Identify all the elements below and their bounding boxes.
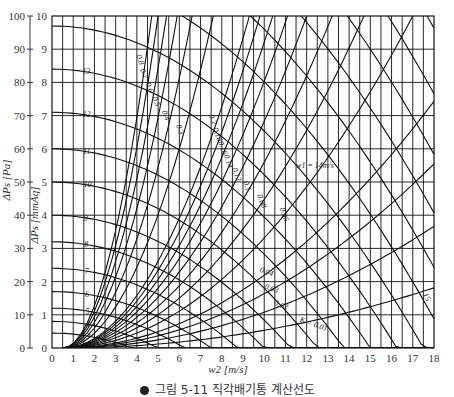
k-curve <box>63 101 434 348</box>
x-tick-label: 15 <box>365 352 377 364</box>
w1-curve-label: 5 <box>86 307 90 316</box>
k-curve-label: 0.2 <box>207 113 219 125</box>
w1-curve-label: 6 <box>85 290 89 299</box>
w1-curve-label: 9 <box>84 214 88 223</box>
x-tick-label: 4 <box>134 352 140 364</box>
y-tick-label-pa: 20 <box>14 276 26 288</box>
y-tick-label-mmaq: 9 <box>42 43 48 55</box>
x-axis-label: w2 [m/s] <box>208 363 247 375</box>
k-curve <box>63 164 434 348</box>
x-tick-label: 11 <box>280 352 291 364</box>
x-tick-label: 16 <box>386 352 398 364</box>
y-tick-label-pa: 0 <box>20 342 26 354</box>
k-curve-label: 0.04 <box>259 265 275 278</box>
x-tick-label: 5 <box>155 352 161 364</box>
y-tick-label-mmaq: 4 <box>42 209 48 221</box>
y-tick-label-pa: 30 <box>14 242 26 254</box>
caption-bullet-icon <box>140 386 149 395</box>
y-tick-label-pa: 50 <box>14 176 26 188</box>
x-tick-label: 7 <box>198 352 204 364</box>
x-tick-label: 10 <box>259 352 271 364</box>
y-tick-label-pa: 100 <box>9 10 26 22</box>
w1-curve-label: 15 <box>421 291 433 302</box>
x-tick-label: 17 <box>407 352 419 364</box>
y-tick-label-pa: 70 <box>14 110 26 122</box>
y-axis-label-pa: ΔPs [Pa] <box>0 160 12 202</box>
w1-curve-label: 12 <box>83 110 91 119</box>
y-tick-label-mmaq: 2 <box>42 276 48 288</box>
w1-curve-label: 10 <box>83 180 91 189</box>
x-tick-label: 12 <box>301 352 312 364</box>
y-tick-label-mmaq: 3 <box>42 242 48 254</box>
y-tick-label-pa: 90 <box>14 43 26 55</box>
w1-curve-label: 8 <box>84 240 88 249</box>
y-axis-label-mmaq: ΔPs [mmAq] <box>28 187 40 245</box>
y-tick-label-mmaq: 7 <box>42 110 48 122</box>
caption-text: 그림 5-11 직각배기통 계산선도 <box>155 383 315 397</box>
w1-curve-label: w1 = 14m/s <box>296 161 334 170</box>
x-tick-label: 13 <box>322 352 334 364</box>
y-tick-label-mmaq: 0 <box>42 342 48 354</box>
y-tick-label-pa: 60 <box>14 143 26 155</box>
x-tick-label: 18 <box>429 352 441 364</box>
x-tick-label: 6 <box>177 352 183 364</box>
x-tick-label: 14 <box>344 352 356 364</box>
y-tick-label-mmaq: 6 <box>42 143 48 155</box>
y-tick-label-mmaq: 8 <box>42 76 48 88</box>
x-tick-label: 2 <box>92 352 98 364</box>
y-tick-label-pa: 80 <box>14 76 26 88</box>
y-tick-label-mmaq: 10 <box>36 10 48 22</box>
x-tick-label: 1 <box>70 352 76 364</box>
x-tick-label: 3 <box>113 352 119 364</box>
y-tick-label-mmaq: 1 <box>42 309 48 321</box>
k-curve-label: 0.8 <box>134 53 146 65</box>
y-tick-label-mmaq: 5 <box>42 176 48 188</box>
w1-curve-label: 4 <box>86 320 90 329</box>
y-tick-label-pa: 10 <box>14 309 26 321</box>
w1-curve-label: 13 <box>82 67 90 76</box>
w1-curve-label: 11 <box>83 147 90 156</box>
w1-curve-label: 3 <box>85 332 90 341</box>
figure-caption: 그림 5-11 직각배기통 계산선도 <box>140 380 315 397</box>
x-tick-label: 0 <box>49 352 55 364</box>
y-tick-label-pa: 40 <box>14 209 26 221</box>
k-curve-label: 0.02 <box>273 298 289 311</box>
